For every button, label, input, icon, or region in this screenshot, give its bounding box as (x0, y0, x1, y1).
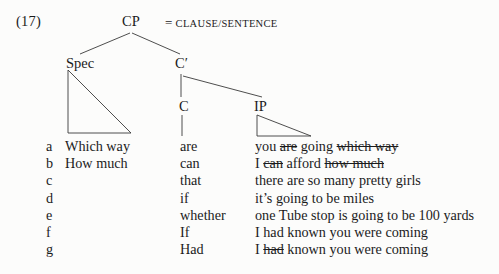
row-spec-cell: How much (65, 155, 128, 172)
ip-triangle (257, 115, 311, 136)
row-letter-label: e (46, 207, 60, 224)
example-row: fIfI had known you were coming (0, 224, 499, 241)
branch-cp-cbar (132, 33, 180, 54)
struck-through-text: how much (324, 155, 384, 171)
tree-node-c-bar: C′ (175, 56, 188, 71)
row-letter-label: d (46, 190, 60, 207)
branch-cp-spec (80, 33, 130, 54)
row-complementizer-cell: Had (180, 241, 204, 258)
example-row: aWhich wayareyou are going which way (0, 138, 499, 155)
tree-node-c: C (179, 99, 189, 114)
tree-node-cp: CP (122, 14, 140, 29)
row-letter-label: g (46, 241, 60, 258)
plain-text: it’s going to be miles (255, 190, 374, 206)
row-ip-cell: there are so many pretty girls (255, 172, 421, 189)
example-row: bHow muchcanI can afford how much (0, 155, 499, 172)
row-letter-label: b (46, 155, 60, 172)
example-row: difit’s going to be miles (0, 190, 499, 207)
struck-through-text: had (263, 241, 284, 257)
struck-through-text: which way (337, 138, 399, 154)
example-row: ewhetherone Tube stop is going to be 100… (0, 207, 499, 224)
row-letter-label: a (46, 138, 60, 155)
plain-text: afford (283, 155, 325, 171)
struck-through-text: are (280, 138, 297, 154)
row-complementizer-cell: that (180, 172, 201, 189)
example-row: cthatthere are so many pretty girls (0, 172, 499, 189)
example-row: gHadI had known you were coming (0, 241, 499, 258)
plain-text: you (255, 138, 280, 154)
plain-text: I had known you were coming (255, 224, 428, 240)
row-complementizer-cell: whether (180, 207, 226, 224)
struck-through-text: can (263, 155, 283, 171)
row-complementizer-cell: are (180, 138, 197, 155)
plain-text: there are so many pretty girls (255, 172, 421, 188)
plain-text: known you were coming (284, 241, 428, 257)
spec-triangle (68, 70, 131, 133)
row-letter-label: c (46, 172, 60, 189)
row-complementizer-cell: if (180, 190, 189, 207)
tree-node-ip: IP (254, 99, 267, 114)
plain-text: one Tube stop is going to be 100 yards (255, 207, 474, 223)
row-complementizer-cell: If (180, 224, 189, 241)
tree-node-spec: Spec (66, 56, 94, 71)
branch-cbar-ip (183, 76, 262, 97)
row-ip-cell: you are going which way (255, 138, 398, 155)
figure-page: (17) = CLAUSE/SENTENCE CP Spec C′ C IP a… (0, 0, 499, 274)
row-ip-cell: I had known you were coming (255, 241, 428, 258)
row-ip-cell: I had known you were coming (255, 224, 428, 241)
row-ip-cell: I can afford how much (255, 155, 384, 172)
row-letter-label: f (46, 224, 60, 241)
example-rows: aWhich wayareyou are going which waybHow… (0, 138, 499, 258)
row-ip-cell: it’s going to be miles (255, 190, 374, 207)
row-complementizer-cell: can (180, 155, 200, 172)
row-ip-cell: one Tube stop is going to be 100 yards (255, 207, 474, 224)
plain-text: going (297, 138, 336, 154)
row-spec-cell: Which way (65, 138, 130, 155)
